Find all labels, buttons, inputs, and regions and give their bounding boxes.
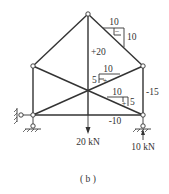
lower-triangle-vertical: 5	[130, 97, 135, 107]
node-bottom-left	[31, 113, 35, 117]
slope-triangle-upper-diagonal: +	[99, 74, 120, 85]
svg-text:+: +	[122, 99, 127, 108]
load-arrow-20kn	[86, 115, 91, 134]
top-triangle-vertical: 10	[127, 32, 137, 42]
node-left-mid	[31, 64, 35, 68]
node-bottom-right	[141, 113, 145, 117]
svg-text:−: −	[115, 27, 120, 36]
slope-triangle-lower-diagonal: +	[107, 97, 128, 108]
reaction-arrow-10kn	[141, 129, 145, 140]
node-right-mid	[141, 64, 145, 68]
bottom-chord-force: -10	[109, 116, 122, 126]
left-rafter	[33, 14, 88, 66]
truss-members	[33, 14, 143, 115]
slope-triangle-top-right: −	[103, 27, 124, 47]
truss-diagram: 20 kN − 10 10 +20 + 10 5 + 10 5 -15 -10	[0, 0, 169, 194]
left-horizontal-support	[14, 108, 33, 124]
node-top	[86, 12, 90, 16]
right-vertical-force: -15	[146, 87, 159, 97]
center-vertical-force: +20	[91, 47, 106, 57]
upper-triangle-horizontal: 10	[103, 64, 113, 74]
upper-triangle-vertical: 5	[92, 75, 97, 85]
top-triangle-horizontal: 10	[109, 17, 119, 27]
reaction-label: 10 kN	[131, 142, 155, 152]
center-load-label: 20 kN	[76, 137, 100, 147]
lower-triangle-horizontal: 10	[112, 87, 122, 97]
left-vertical-support	[23, 115, 41, 132]
right-vertical-support	[133, 115, 151, 132]
figure-caption: ( b )	[80, 174, 96, 185]
svg-text:+: +	[103, 76, 108, 85]
